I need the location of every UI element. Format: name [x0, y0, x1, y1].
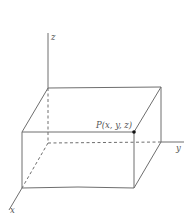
point-p: [132, 130, 136, 134]
x-axis-hidden: [22, 143, 48, 188]
box-edge-top-right: [134, 87, 161, 132]
box-edge-bottom-right: [134, 142, 161, 188]
point-p-label: P(x, y, z): [95, 120, 132, 130]
box-edge-top-left: [22, 88, 48, 132]
coordinate-box-diagram: z y x P(x, y, z): [0, 0, 193, 222]
x-axis-label: x: [10, 205, 15, 215]
z-axis-label: z: [50, 32, 56, 42]
y-axis-hidden: [48, 142, 161, 143]
box-edge-bottom-front: [22, 187, 134, 188]
y-axis-label: y: [175, 143, 181, 153]
box-edge-top-back: [48, 87, 161, 88]
